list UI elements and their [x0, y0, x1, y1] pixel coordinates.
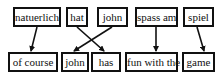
target-word-fun-with-the: fun with the [125, 52, 178, 72]
source-word-spass-am: spass am [135, 7, 178, 27]
source-word-spiel: spiel [183, 7, 214, 27]
alignment-diagram: natuerlich hat john spass am spiel of co… [0, 0, 224, 79]
source-word-natuerlich: natuerlich [13, 7, 61, 27]
alignment-arrow [31, 27, 37, 51]
target-word-of-course: of course [8, 52, 58, 72]
source-word-john: john [97, 7, 128, 27]
target-word-john: john [61, 52, 89, 72]
target-word-has: has [91, 52, 121, 72]
source-word-hat: hat [66, 7, 88, 27]
alignment-arrow [197, 27, 204, 51]
target-word-game: game [182, 52, 215, 72]
alignment-arrow [74, 27, 112, 51]
